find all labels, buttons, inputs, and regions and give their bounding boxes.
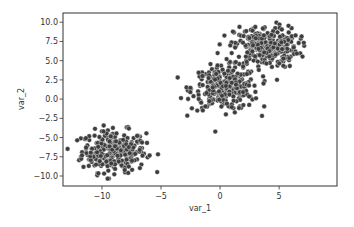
data-point — [272, 41, 277, 46]
data-point — [101, 123, 106, 128]
data-point — [273, 52, 278, 57]
data-point — [199, 100, 204, 105]
data-point — [222, 33, 227, 38]
data-point — [185, 113, 190, 118]
data-point — [287, 64, 292, 69]
data-point — [256, 68, 261, 73]
data-point — [93, 126, 98, 131]
data-point — [213, 77, 218, 82]
x-tick-label: −5 — [155, 192, 167, 201]
data-point — [254, 96, 259, 101]
y-tick-label: −5.0 — [39, 134, 58, 143]
data-point — [278, 34, 283, 39]
data-point — [115, 153, 120, 158]
x-tick-label: 0 — [218, 192, 223, 201]
data-point — [264, 61, 269, 66]
data-point — [215, 51, 220, 56]
data-point — [229, 80, 234, 85]
data-point — [126, 164, 131, 169]
data-point — [105, 153, 110, 158]
data-point — [204, 91, 209, 96]
data-point — [237, 25, 242, 30]
data-point — [269, 32, 274, 37]
data-point — [245, 50, 250, 55]
data-point — [210, 85, 215, 90]
data-point — [81, 165, 86, 170]
data-point — [98, 154, 103, 159]
data-point — [231, 68, 236, 73]
data-point — [207, 99, 212, 104]
data-point — [252, 83, 257, 88]
data-point — [155, 170, 160, 175]
data-point — [113, 167, 118, 172]
data-point — [261, 74, 266, 79]
data-point — [94, 162, 99, 167]
data-point — [113, 144, 118, 149]
data-point — [275, 77, 280, 82]
data-point — [261, 33, 266, 38]
scatter-chart: −10−505 −10.0−7.5−5.0−2.50.02.55.07.510.… — [0, 0, 354, 227]
data-point — [195, 108, 200, 113]
data-point — [106, 168, 111, 173]
data-point — [228, 43, 233, 48]
data-point — [112, 172, 117, 177]
data-point — [135, 134, 140, 139]
x-tick-label: −10 — [94, 192, 111, 201]
y-tick-label: 5.0 — [45, 57, 58, 66]
data-point — [191, 94, 196, 99]
data-point — [196, 70, 201, 75]
data-point — [97, 159, 102, 164]
x-tick-label: 5 — [277, 192, 282, 201]
data-point — [233, 60, 238, 65]
y-tick-label: −10.0 — [33, 172, 58, 181]
data-point — [126, 126, 131, 131]
data-point — [147, 153, 152, 158]
data-point — [247, 103, 252, 108]
x-axis-label: var_1 — [189, 204, 211, 213]
data-point — [156, 152, 161, 157]
data-point — [253, 54, 258, 59]
data-point — [301, 40, 306, 45]
data-point — [293, 33, 298, 38]
data-point — [84, 136, 89, 141]
data-point — [285, 46, 290, 51]
data-point — [214, 72, 219, 77]
data-point — [206, 76, 211, 81]
data-point — [126, 145, 131, 150]
y-tick-label: 0.0 — [45, 95, 58, 104]
data-point — [200, 83, 205, 88]
data-point — [241, 34, 246, 39]
data-point — [188, 90, 193, 95]
data-point — [260, 114, 265, 119]
data-point — [256, 47, 261, 52]
data-point — [203, 104, 208, 109]
y-tick-label: −7.5 — [39, 153, 58, 162]
data-point — [145, 141, 150, 146]
data-point — [217, 97, 222, 102]
data-point — [75, 138, 80, 143]
data-point — [140, 153, 145, 158]
data-point — [233, 45, 238, 50]
data-point — [279, 27, 284, 32]
data-point — [130, 158, 135, 163]
data-point — [224, 57, 229, 62]
data-point — [124, 157, 129, 162]
data-point — [217, 89, 222, 94]
data-point — [296, 41, 301, 46]
data-point — [281, 56, 286, 61]
data-point — [241, 64, 246, 69]
data-point — [224, 112, 229, 117]
data-point — [190, 106, 195, 111]
data-point — [84, 145, 89, 150]
data-point — [250, 49, 255, 54]
data-point — [138, 166, 143, 171]
data-point — [208, 62, 213, 67]
data-point — [127, 151, 132, 156]
data-point — [247, 94, 252, 99]
data-point — [286, 30, 291, 35]
data-point — [253, 90, 258, 95]
data-point — [237, 54, 242, 59]
y-tick-label: −2.5 — [39, 114, 58, 123]
data-point — [95, 150, 100, 155]
data-point — [286, 23, 291, 28]
